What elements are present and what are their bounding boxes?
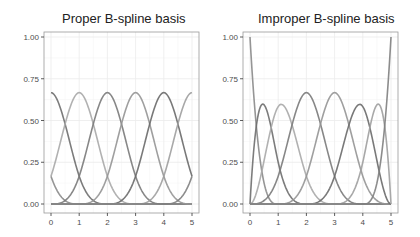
y-tick-label: 0.25 — [23, 158, 39, 167]
x-tick-label: 1 — [276, 218, 281, 227]
y-tick-label: 1.00 — [222, 33, 238, 42]
x-tick-label: 0 — [49, 218, 54, 227]
x-tick-label: 0 — [248, 218, 253, 227]
x-tick-label: 5 — [190, 218, 195, 227]
y-tick-label: 1.00 — [23, 33, 39, 42]
y-tick-label: 0.25 — [222, 158, 238, 167]
x-tick-label: 2 — [105, 218, 110, 227]
x-tick-label: 5 — [389, 218, 394, 227]
x-tick-label: 3 — [133, 218, 138, 227]
x-tick-label: 4 — [361, 218, 366, 227]
y-tick-label: 0.50 — [23, 117, 39, 126]
left-chart-panel: Proper B-spline basis 0.000.250.500.751.… — [0, 0, 210, 237]
left-plot-area: 0.000.250.500.751.00012345 — [0, 0, 210, 237]
x-tick-label: 3 — [332, 218, 337, 227]
y-tick-label: 0.00 — [222, 200, 238, 209]
y-tick-label: 0.75 — [23, 75, 39, 84]
y-tick-label: 0.50 — [222, 117, 238, 126]
x-tick-label: 2 — [304, 218, 309, 227]
x-tick-label: 1 — [77, 218, 82, 227]
y-tick-label: 0.00 — [23, 200, 39, 209]
right-chart-panel: Improper B-spline basis 0.000.250.500.75… — [210, 0, 420, 237]
right-plot-area: 0.000.250.500.751.00012345 — [210, 0, 420, 237]
x-tick-label: 4 — [162, 218, 167, 227]
y-tick-label: 0.75 — [222, 75, 238, 84]
